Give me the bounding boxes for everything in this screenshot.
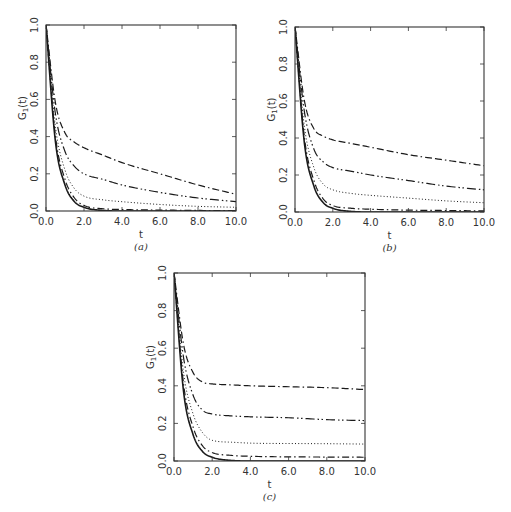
x-tick-label: 10.0 (354, 466, 376, 477)
series-dash-dash-dot (174, 273, 365, 390)
x-tick-label: 0.0 (166, 466, 182, 477)
x-tick-label: 8.0 (319, 466, 335, 477)
series-dash-dot (174, 273, 365, 457)
y-tick-label: 0.0 (157, 453, 168, 469)
series-long-dash-dot-dot (174, 273, 365, 421)
series-dotted (174, 273, 365, 444)
y-tick-label: 0.6 (157, 340, 168, 356)
y-tick-label: 0.2 (157, 415, 168, 431)
x-tick-label: 4.0 (242, 466, 258, 477)
y-tick-label: 0.4 (157, 378, 168, 394)
chart-svg: 0.02.04.06.08.010.00.00.20.40.60.81.0G1(… (0, 0, 511, 512)
panel-label: (c) (263, 491, 277, 502)
y-tick-label: 0.8 (157, 303, 168, 319)
y-tick-label: 1.0 (157, 265, 168, 281)
x-axis-label: t (268, 479, 272, 490)
series-group (174, 273, 365, 461)
x-tick-label: 2.0 (204, 466, 220, 477)
x-tick-label: 6.0 (281, 466, 297, 477)
chart-panel-c: 0.02.04.06.08.010.00.00.20.40.60.81.0G1(… (0, 0, 511, 512)
